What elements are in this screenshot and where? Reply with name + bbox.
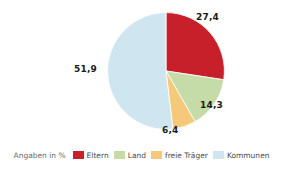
legend-label-eltern: Eltern: [87, 151, 109, 160]
pie-slice-group: [108, 13, 225, 130]
data-label-land: 14,3: [200, 100, 223, 110]
data-label-kommunen: 51,9: [74, 64, 97, 74]
legend-label-kommunen: Kommunen: [227, 151, 270, 160]
pie-slice-kommunen: [108, 13, 173, 130]
legend-swatch-land: [114, 151, 125, 159]
data-label-eltern: 27,4: [196, 12, 219, 22]
legend-item-land: Land: [114, 151, 146, 160]
chart-legend: Angaben in % Eltern Land freie Träger Ko…: [0, 146, 283, 164]
pie-slice-eltern: [166, 13, 224, 80]
data-label-freie-traeger: 6,4: [162, 125, 179, 135]
legend-swatch-kommunen: [213, 151, 224, 159]
pie-plot-area: 27,4 14,3 6,4 51,9: [0, 0, 283, 142]
legend-item-eltern: Eltern: [73, 151, 109, 160]
legend-note: Angaben in %: [14, 151, 66, 160]
legend-item-kommunen: Kommunen: [213, 151, 270, 160]
pie-svg: [107, 10, 225, 132]
pie-chart-figure: 27,4 14,3 6,4 51,9 Angaben in % Eltern L…: [0, 0, 283, 170]
legend-label-land: Land: [128, 151, 146, 160]
legend-label-freie-traeger: freie Träger: [165, 151, 208, 160]
legend-swatch-freie-traeger: [151, 151, 162, 159]
legend-swatch-eltern: [73, 151, 84, 159]
legend-item-freie-traeger: freie Träger: [151, 151, 208, 160]
